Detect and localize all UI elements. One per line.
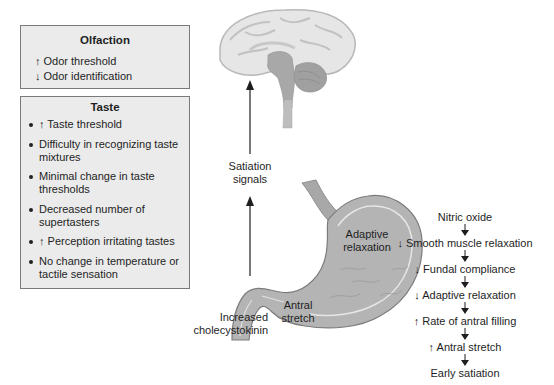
cck-label-line1: Increased: [168, 311, 268, 324]
satiation-label-line1: Satiation: [218, 160, 282, 173]
antral-label-line2: stretch: [272, 312, 324, 325]
cck-label: Increased cholecystokinin: [168, 311, 268, 337]
antral-label-line1: Antral: [272, 299, 324, 312]
down-arrow-icon: [375, 354, 554, 366]
chain-step: ↑ Antral stretch: [375, 340, 554, 354]
chain-step: ↑ Rate of antral filling: [375, 314, 554, 328]
chain-step: ↓ Smooth muscle relaxation: [375, 236, 554, 250]
chain-step: Nitric oxide: [375, 210, 554, 224]
chain-step: Early satiation: [375, 366, 554, 380]
down-arrow-icon: [375, 328, 554, 340]
satiation-signals-label: Satiation signals: [218, 160, 282, 186]
nitric-oxide-chain: Nitric oxide ↓ Smooth muscle relaxation …: [375, 210, 554, 380]
chain-step: ↓ Fundal compliance: [375, 262, 554, 276]
down-arrow-icon: [375, 250, 554, 262]
antral-stretch-label: Antral stretch: [272, 299, 324, 325]
cck-label-line2: cholecystokinin: [168, 324, 268, 337]
brain-icon: [220, 10, 355, 128]
down-arrow-icon: [375, 276, 554, 288]
satiation-label-line2: signals: [218, 173, 282, 186]
down-arrow-icon: [375, 302, 554, 314]
chain-step: ↓ Adaptive relaxation: [375, 288, 554, 302]
down-arrow-icon: [375, 224, 554, 236]
